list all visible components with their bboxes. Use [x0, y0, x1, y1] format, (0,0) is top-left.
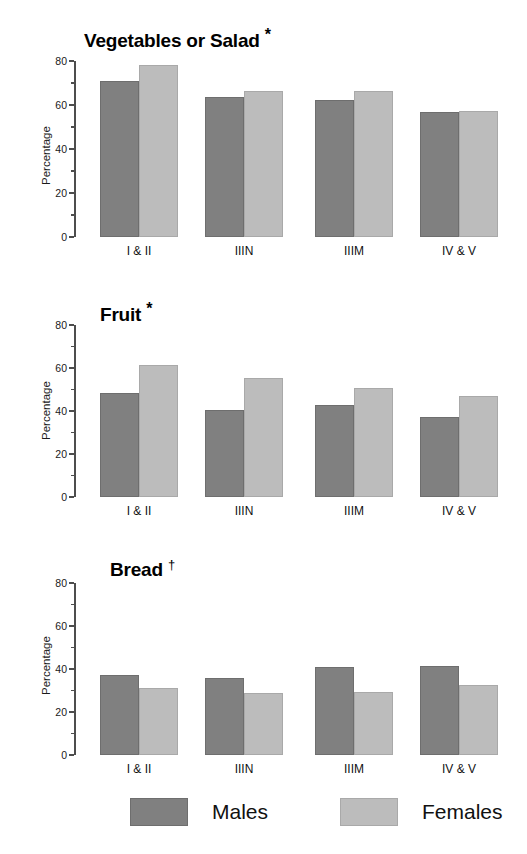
- y-tick: [69, 711, 74, 713]
- y-tick-label: 20: [55, 187, 67, 199]
- x-category-label: IV & V: [442, 244, 476, 258]
- bar-females: [459, 685, 498, 755]
- legend-label: Males: [212, 800, 268, 824]
- bar-males: [315, 667, 354, 755]
- y-tick: [69, 754, 74, 756]
- significance-marker: *: [265, 26, 271, 43]
- x-category-label: I & II: [127, 762, 152, 776]
- y-tick-label: 60: [55, 99, 67, 111]
- panel-title: Fruit *: [100, 300, 152, 326]
- bar-females: [244, 91, 283, 237]
- plot-area: 020406080I & IIIIINIIIMIV & V: [74, 583, 514, 755]
- x-category-label: IIIN: [235, 244, 254, 258]
- x-category-label: IIIM: [344, 504, 364, 518]
- bar-males: [100, 393, 139, 497]
- x-category-label: IIIN: [235, 504, 254, 518]
- y-axis-label: Percentage: [40, 636, 52, 695]
- y-tick-minor: [71, 690, 74, 692]
- y-tick-minor: [71, 214, 74, 216]
- y-tick: [69, 236, 74, 238]
- y-tick-label: 0: [61, 231, 67, 243]
- y-tick: [69, 192, 74, 194]
- y-tick-label: 80: [55, 577, 67, 589]
- significance-marker: †: [168, 557, 175, 572]
- y-tick: [69, 453, 74, 455]
- y-tick-minor: [71, 126, 74, 128]
- y-tick-minor: [71, 170, 74, 172]
- y-tick: [69, 496, 74, 498]
- significance-marker: *: [146, 300, 152, 317]
- y-axis-label: Percentage: [40, 381, 52, 440]
- chart-panel-fruit: Fruit * Percentage 020406080I & IIIIINII…: [0, 290, 527, 555]
- chart-panel-vegetables-or-salad: Vegetables or Salad * Percentage 0204060…: [0, 0, 527, 290]
- y-tick-label: 20: [55, 706, 67, 718]
- x-category-label: IV & V: [442, 504, 476, 518]
- y-tick-minor: [71, 604, 74, 606]
- y-tick-minor: [71, 346, 74, 348]
- panel-title-text: Fruit: [100, 304, 141, 325]
- y-tick-label: 40: [55, 663, 67, 675]
- legend-item-females: Females: [340, 798, 503, 826]
- panel-title-text: Vegetables or Salad: [84, 30, 260, 51]
- bar-males: [420, 417, 459, 497]
- y-tick: [69, 582, 74, 584]
- y-tick: [69, 148, 74, 150]
- males-swatch-icon: [130, 798, 188, 826]
- bar-males: [205, 678, 244, 755]
- y-tick: [69, 324, 74, 326]
- bar-females: [459, 396, 498, 497]
- legend-item-males: Males: [130, 798, 268, 826]
- bar-females: [354, 91, 393, 237]
- legend: Males Females: [0, 798, 527, 838]
- y-tick: [69, 668, 74, 670]
- bars-layer: [74, 583, 514, 755]
- females-swatch-icon: [340, 798, 398, 826]
- y-tick-minor: [71, 389, 74, 391]
- y-tick-label: 80: [55, 55, 67, 67]
- x-category-label: IIIM: [344, 244, 364, 258]
- x-category-label: IIIN: [235, 762, 254, 776]
- x-category-label: I & II: [127, 244, 152, 258]
- bar-males: [420, 666, 459, 755]
- y-tick-minor: [71, 432, 74, 434]
- bar-females: [354, 388, 393, 497]
- y-tick: [69, 104, 74, 106]
- y-tick-minor: [71, 475, 74, 477]
- bars-layer: [74, 61, 514, 237]
- bar-males: [100, 675, 139, 755]
- figure-root: Vegetables or Salad * Percentage 0204060…: [0, 0, 527, 854]
- plot-area: 020406080I & IIIIINIIIMIV & V: [74, 61, 514, 237]
- y-tick-label: 60: [55, 620, 67, 632]
- y-tick-label: 0: [61, 491, 67, 503]
- plot-area: 020406080I & IIIIINIIIMIV & V: [74, 325, 514, 497]
- legend-label: Females: [422, 800, 503, 824]
- panel-title: Bread †: [110, 557, 175, 581]
- bar-females: [354, 692, 393, 755]
- panel-title: Vegetables or Salad *: [84, 26, 271, 52]
- y-tick-minor: [71, 647, 74, 649]
- bar-females: [244, 378, 283, 497]
- bar-males: [315, 100, 354, 238]
- y-tick-label: 0: [61, 749, 67, 761]
- y-tick-minor: [71, 733, 74, 735]
- bar-females: [459, 111, 498, 238]
- y-tick: [69, 410, 74, 412]
- bar-females: [139, 688, 178, 755]
- bar-males: [315, 405, 354, 497]
- bars-layer: [74, 325, 514, 497]
- bar-males: [205, 410, 244, 497]
- y-tick: [69, 60, 74, 62]
- y-tick-label: 40: [55, 405, 67, 417]
- bar-males: [205, 97, 244, 237]
- y-tick-label: 20: [55, 448, 67, 460]
- y-tick-minor: [71, 82, 74, 84]
- bar-males: [420, 112, 459, 237]
- bar-females: [139, 365, 178, 497]
- y-tick-label: 60: [55, 362, 67, 374]
- bar-females: [244, 693, 283, 755]
- panel-title-text: Bread: [110, 559, 163, 580]
- x-category-label: IV & V: [442, 762, 476, 776]
- y-tick-label: 80: [55, 319, 67, 331]
- x-category-label: IIIM: [344, 762, 364, 776]
- bar-females: [139, 65, 178, 237]
